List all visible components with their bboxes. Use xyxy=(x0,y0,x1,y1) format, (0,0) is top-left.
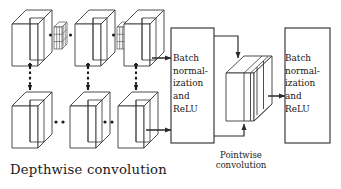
pointwise-conv-stack xyxy=(226,56,272,121)
depthwise-top-slab-2 xyxy=(75,10,115,66)
figure-canvas: Batch normal- ization and ReLU Batch nor… xyxy=(0,0,341,189)
depthwise-bottom-slab-3 xyxy=(118,92,158,148)
depthwise-convolution-label: Depthwise convolution xyxy=(10,163,167,177)
depthwise-bottom-slab-2 xyxy=(70,92,110,148)
batch-normalization-relu-1-label: Batch normal- ization and ReLU xyxy=(173,52,208,115)
arrow-bn1-to-pointwise-top xyxy=(214,36,238,58)
pointwise-convolution-label: Pointwise convolution xyxy=(198,150,284,171)
batch-normalization-relu-2-label: Batch normal- ization and ReLU xyxy=(285,52,320,115)
depthwise-kernel-1 xyxy=(54,22,67,49)
arrow-bn1-to-pointwise-bottom xyxy=(214,124,244,136)
depthwise-top-slab-1 xyxy=(12,10,52,66)
depthwise-bottom-slab-1 xyxy=(12,92,52,148)
